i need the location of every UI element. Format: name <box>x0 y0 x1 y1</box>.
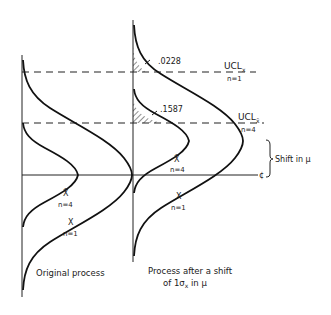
shift-brace <box>266 140 273 177</box>
shift-label: Shift in μ <box>275 155 311 164</box>
right-caption-line1: Process after a shift <box>148 266 233 276</box>
tail-value-0228: .0228 <box>158 57 181 66</box>
ucl-n1-n: n=1 <box>227 75 242 83</box>
tail-value-1587: .1587 <box>160 105 183 114</box>
left-n1-symbol: X <box>68 218 74 227</box>
ucl-n4-n: n=4 <box>241 126 256 134</box>
right-n1-symbol: X <box>176 192 182 201</box>
right-n4-symbol: X̄ <box>174 154 180 164</box>
left-caption: Original process <box>36 268 105 278</box>
left-n4-symbol: X̄ <box>63 188 69 198</box>
left-n1-n: n=1 <box>63 230 78 238</box>
right-n4-n: n=4 <box>170 166 185 174</box>
control-chart-shift-diagram: .0228 .1587 UCLx n=1 UCLx̄ n=4 ¢ Shift i… <box>0 0 331 315</box>
tail-area-1587 <box>133 98 162 123</box>
ucl-n4-label: UCLx̄ <box>238 112 260 124</box>
right-caption-line2: of 1σx in μ <box>163 278 207 289</box>
ucl-n1-label: UCLx <box>224 61 246 73</box>
right-n1-n: n=1 <box>171 204 186 212</box>
center-line-mark: ¢ <box>259 171 264 180</box>
left-n4-n: n=4 <box>58 201 73 209</box>
